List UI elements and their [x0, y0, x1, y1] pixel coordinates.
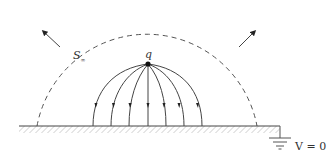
ground-hatch [19, 126, 280, 133]
field-line-arrows [95, 103, 200, 108]
outward-arrow-right-icon [239, 32, 254, 47]
surface-label: S∞ [73, 49, 86, 63]
diagram-canvas: q S∞ V = 0 [0, 0, 335, 163]
field-lines [93, 64, 202, 126]
ground-potential-label: V = 0 [294, 140, 326, 153]
outward-arrow-left-icon [44, 32, 60, 47]
charge-label: q [145, 48, 152, 61]
charge-point [145, 61, 150, 66]
